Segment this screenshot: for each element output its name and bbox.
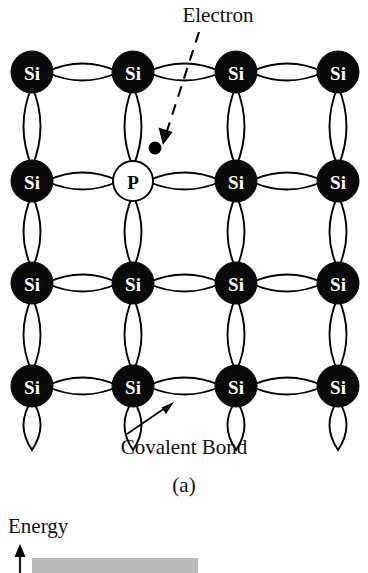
covalent-bond-vertical bbox=[24, 195, 41, 269]
covalent-bond-vertical bbox=[125, 86, 142, 167]
atom-symbol: Si bbox=[125, 377, 141, 398]
leader-line-solid bbox=[127, 406, 168, 434]
atom-symbol: Si bbox=[330, 274, 346, 295]
covalent-bond-vertical bbox=[228, 195, 245, 269]
panel-label: (a) bbox=[172, 473, 195, 497]
covalent-bond-horizontal bbox=[250, 275, 324, 292]
atom-si: Si bbox=[215, 365, 257, 407]
atom-si: Si bbox=[317, 51, 359, 93]
covalent-bond-vertical bbox=[330, 297, 347, 372]
atom-symbol: Si bbox=[24, 377, 40, 398]
atom-symbol: Si bbox=[125, 274, 141, 295]
covalent-bond-vertical bbox=[24, 86, 41, 167]
atom-symbol: P bbox=[127, 172, 139, 193]
covalent-bond-horizontal bbox=[46, 378, 119, 395]
atom-si: Si bbox=[11, 51, 53, 93]
atom-symbol: Si bbox=[125, 63, 141, 84]
arrowhead bbox=[15, 544, 26, 557]
covalent-bond-horizontal bbox=[147, 275, 222, 292]
electron-label: Electron bbox=[182, 3, 254, 27]
energy-axis-label: Energy bbox=[8, 514, 69, 538]
covalent-bond-vertical bbox=[228, 86, 245, 167]
covalent-bond-horizontal bbox=[46, 275, 119, 292]
atom-phosphorus-dopant: P bbox=[113, 161, 153, 201]
covalent-bond-horizontal bbox=[147, 173, 222, 190]
atom-si: Si bbox=[215, 51, 257, 93]
atom-si: Si bbox=[215, 160, 257, 202]
atom-symbol: Si bbox=[228, 63, 244, 84]
figure-canvas: Si Si Si Si Si P bbox=[0, 0, 368, 573]
atom-si: Si bbox=[215, 262, 257, 304]
covalent-bond-horizontal bbox=[46, 64, 119, 81]
atom-symbol: Si bbox=[330, 63, 346, 84]
covalent-bond-vertical bbox=[330, 86, 347, 167]
free-electron-dot bbox=[149, 142, 162, 155]
atom-si: Si bbox=[11, 160, 53, 202]
atom-symbol: Si bbox=[330, 172, 346, 193]
electron-leader-arrow bbox=[159, 32, 200, 145]
covalent-bond-vertical bbox=[228, 297, 245, 372]
atom-si: Si bbox=[112, 262, 154, 304]
atom-si: Si bbox=[11, 262, 53, 304]
covalent-bond-label: Covalent Bond bbox=[121, 435, 248, 459]
covalent-bond-horizontal bbox=[46, 173, 119, 190]
covalent-bond-horizontal bbox=[250, 64, 324, 81]
leader-line-dashed bbox=[166, 32, 199, 134]
covalent-bond-vertical bbox=[125, 195, 142, 269]
atom-symbol: Si bbox=[24, 274, 40, 295]
atom-si: Si bbox=[112, 51, 154, 93]
covalent-bond-horizontal bbox=[250, 173, 324, 190]
covalent-bond-vertical bbox=[330, 195, 347, 269]
atom-si: Si bbox=[317, 262, 359, 304]
covalent-bond-horizontal bbox=[147, 378, 222, 395]
atom-symbol: Si bbox=[330, 377, 346, 398]
lattice-row: Si Si Si Si bbox=[11, 262, 359, 304]
arrowhead bbox=[162, 402, 175, 414]
atom-si: Si bbox=[317, 160, 359, 202]
covalent-bond-horizontal bbox=[250, 378, 324, 395]
atom-symbol: Si bbox=[228, 172, 244, 193]
atom-si: Si bbox=[11, 365, 53, 407]
atom-symbol: Si bbox=[228, 274, 244, 295]
lattice-row: Si P Si Si bbox=[11, 160, 359, 202]
horizontal-bond-group bbox=[46, 64, 324, 395]
covalent-bond-vertical bbox=[125, 297, 142, 372]
atom-symbol: Si bbox=[228, 377, 244, 398]
energy-band bbox=[32, 558, 198, 573]
energy-axis-arrow bbox=[15, 544, 26, 573]
lattice-row: Si Si Si Si bbox=[11, 365, 359, 407]
atom-si: Si bbox=[112, 365, 154, 407]
semiconductor-lattice-figure: Si Si Si Si Si P bbox=[0, 0, 368, 573]
atom-symbol: Si bbox=[24, 63, 40, 84]
atom-symbol: Si bbox=[24, 172, 40, 193]
covalent-bond-vertical bbox=[24, 297, 41, 372]
arrowhead bbox=[159, 128, 173, 146]
atom-si: Si bbox=[317, 365, 359, 407]
